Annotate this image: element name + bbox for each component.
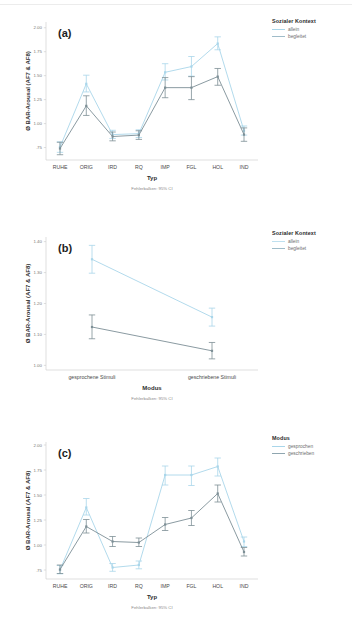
y-tick-label: 1.50 [33, 73, 42, 78]
y-tick-label: 2.00 [33, 25, 42, 30]
data-point-marker [111, 135, 113, 137]
y-axis-title: Ø BAR-Arousal (AF7 & AF8) [25, 471, 31, 550]
error-bar [188, 511, 194, 526]
legend-entry-allein-b: allein [272, 239, 316, 244]
legend-title-a: Sozialer Kontext [272, 18, 316, 24]
panel-tag: (a) [58, 27, 72, 39]
x-category-label: IMP [161, 583, 171, 589]
y-tick-label: .75 [36, 145, 43, 150]
x-category-label: IRD [108, 583, 117, 589]
data-point-marker [243, 540, 245, 542]
y-tick-label: 1.75 [33, 49, 42, 54]
x-category-label: IND [240, 583, 249, 589]
x-category-label: HOL [212, 583, 223, 589]
legend-label-allein-b: allein [288, 239, 299, 244]
error-bar [188, 57, 194, 77]
x-category-label: ORIG [80, 164, 93, 170]
chart-footnote: Fehlerbalken: 95% CI [131, 186, 172, 191]
data-point-marker [190, 65, 192, 67]
data-point-marker [59, 568, 61, 570]
x-axis-title: Modus [142, 385, 162, 391]
y-tick-label: .75 [36, 568, 43, 573]
chart-panel-b: 1.401.301.201.101.00gesprochene Stimulig… [0, 213, 352, 426]
chart-svg-c: 2.001.751.501.251.00.75RUHEORIGIRDRQIMPF… [0, 426, 352, 639]
data-point-marker [164, 87, 166, 89]
error-bar [188, 77, 194, 100]
data-point-marker [211, 316, 213, 318]
x-axis-title: Typ [147, 594, 158, 600]
data-point-marker [164, 523, 166, 525]
y-tick-label: 1.40 [33, 239, 42, 244]
error-bar [241, 548, 247, 557]
chart-footnote: Fehlerbalken: 95% CI [131, 605, 172, 610]
x-category-label: RQ [135, 164, 143, 170]
x-category-label: RQ [135, 583, 143, 589]
series-begleitet [57, 68, 247, 154]
x-axis-title: Typ [147, 175, 158, 181]
y-tick-label: 1.25 [33, 518, 42, 523]
data-point-marker [85, 83, 87, 85]
data-point-marker [243, 134, 245, 136]
y-tick-label: 2.00 [33, 443, 42, 448]
error-bar [89, 315, 95, 339]
data-point-marker [85, 525, 87, 527]
y-tick-label: 1.00 [33, 121, 42, 126]
data-point-marker [91, 326, 93, 328]
data-point-marker [111, 566, 113, 568]
data-point-marker [111, 540, 113, 542]
y-tick-label: 1.30 [33, 270, 42, 275]
x-category-label: FGL [186, 583, 196, 589]
x-category-label: HOL [212, 164, 223, 170]
legend-entry-begleitet-b: begleitet [272, 246, 316, 251]
error-bar [215, 37, 221, 50]
x-category-label: RUHE [53, 583, 68, 589]
x-category-label: geschriebene Stimuli [188, 374, 236, 380]
data-point-marker [164, 474, 166, 476]
data-point-marker [217, 492, 219, 494]
panel-tag: (b) [58, 242, 72, 254]
legend-entry-geschrieben: geschrieben [272, 451, 314, 456]
y-tick-label: 1.75 [33, 468, 42, 473]
x-category-label: IND [240, 164, 249, 170]
chart-panel-a: 2.001.751.501.251.00.75RUHEORIGIRDRQIMPF… [0, 0, 352, 213]
data-point-marker [91, 258, 93, 260]
legend-b: Sozialer Kontext allein begleitet [272, 230, 316, 251]
data-point-marker [164, 71, 166, 73]
chart-footnote: Fehlerbalken: 95% CI [131, 396, 172, 401]
legend-swatch-allein-b [272, 241, 285, 242]
data-point-marker [85, 506, 87, 508]
legend-label-geschrieben: geschrieben [288, 451, 314, 456]
legend-swatch-begleitet-b [272, 248, 285, 249]
x-category-label: IMP [161, 164, 171, 170]
data-point-marker [217, 42, 219, 44]
legend-swatch-geschrieben [272, 453, 285, 454]
data-point-marker [85, 105, 87, 107]
error-bar [188, 466, 194, 486]
legend-title-c: Modus [272, 435, 314, 441]
data-point-marker [190, 517, 192, 519]
chart-panel-c: 2.001.751.501.251.00.75RUHEORIGIRDRQIMPF… [0, 426, 352, 639]
legend-entry-begleitet: begleitet [272, 34, 316, 39]
legend-c: Modus gesprochen geschrieben [272, 435, 314, 456]
error-bar [89, 245, 95, 273]
data-point-marker [59, 147, 61, 149]
data-point-marker [138, 564, 140, 566]
y-tick-label: 1.10 [33, 332, 42, 337]
series-allein [57, 37, 247, 152]
x-category-label: gesprochene Stimuli [68, 374, 115, 380]
error-bar [215, 68, 221, 85]
data-point-marker [190, 474, 192, 476]
data-point-marker [217, 465, 219, 467]
data-point-marker [190, 87, 192, 89]
legend-entry-gesprochen: gesprochen [272, 444, 314, 449]
x-category-label: RUHE [53, 164, 68, 170]
error-bar [209, 308, 215, 326]
data-point-marker [138, 541, 140, 543]
legend-label-allein: allein [288, 27, 299, 32]
data-point-marker [243, 551, 245, 553]
legend-swatch-gesprochen [272, 446, 285, 447]
panel-tag: (c) [58, 447, 72, 459]
y-tick-label: 1.00 [33, 543, 42, 548]
y-tick-label: 1.00 [33, 363, 42, 368]
data-point-marker [217, 76, 219, 78]
